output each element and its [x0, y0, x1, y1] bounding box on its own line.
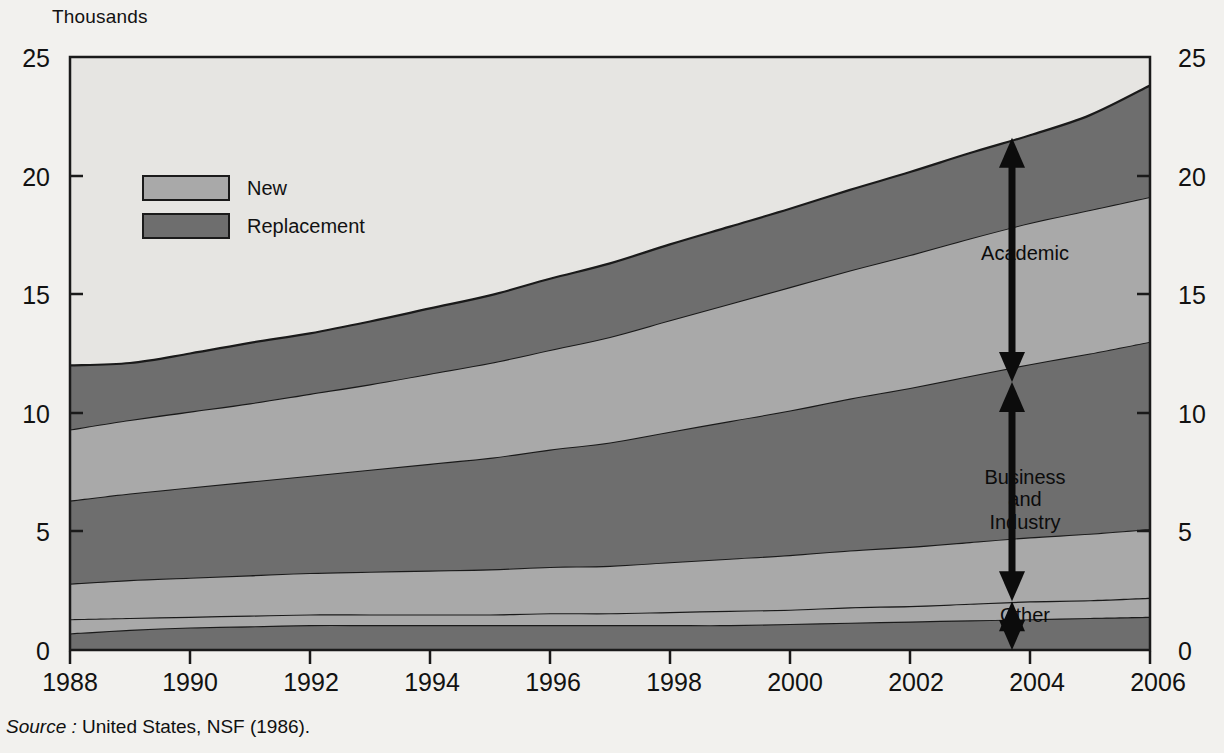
legend-label-replacement: Replacement — [247, 215, 365, 238]
annotation-academic: Academic — [965, 242, 1085, 264]
annotation-business-line-2: and — [965, 488, 1085, 510]
source-note: Source : United States, NSF (1986). — [6, 716, 310, 738]
annotation-business-line-3: Industry — [965, 511, 1085, 533]
legend-label-new: New — [247, 177, 287, 200]
legend-swatch-new — [143, 176, 229, 200]
annotation-business-and-industry: Business and Industry — [965, 466, 1085, 533]
figure-root: Thousands 25 20 15 10 5 0 25 20 15 10 5 … — [0, 0, 1224, 753]
x-axis-ticks — [70, 651, 1150, 664]
annotation-business-line-1: Business — [965, 466, 1085, 488]
stacked-area-chart — [0, 0, 1224, 753]
annotation-other: Other — [965, 604, 1085, 626]
legend-swatch-replacement — [143, 214, 229, 238]
source-keyword: Source : — [6, 716, 77, 737]
source-text: United States, NSF (1986). — [82, 716, 310, 737]
